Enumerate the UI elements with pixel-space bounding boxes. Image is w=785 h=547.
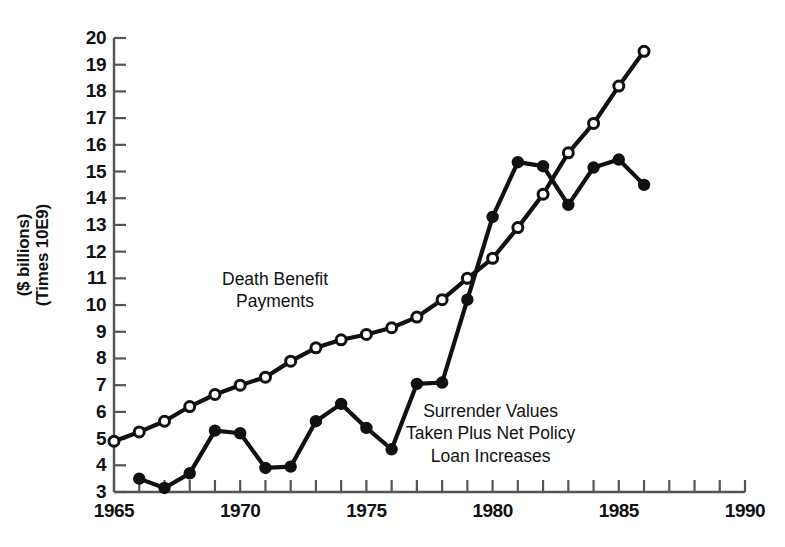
data-point [614, 81, 624, 91]
x-tick-label: 1970 [195, 500, 285, 522]
x-tick-label: 1975 [321, 500, 411, 522]
data-point [336, 399, 346, 409]
data-point [159, 416, 169, 426]
y-tick-label: 14 [62, 187, 106, 209]
data-point [286, 356, 296, 366]
data-point [437, 295, 447, 305]
y-tick-label: 9 [62, 321, 106, 343]
data-point [538, 189, 548, 199]
data-point [386, 444, 396, 454]
y-axis-title-line-1: ($ billions) [14, 160, 33, 350]
data-point [336, 335, 346, 345]
x-tick-label: 1965 [69, 500, 159, 522]
data-point [488, 253, 498, 263]
y-tick-label: 8 [62, 347, 106, 369]
data-point [513, 157, 523, 167]
y-tick-label: 4 [62, 454, 106, 476]
y-axis-title-line-2: (Times 10E9) [33, 160, 52, 350]
data-point [563, 200, 573, 210]
x-tick-label: 1985 [574, 500, 664, 522]
y-tick-label: 20 [62, 27, 106, 49]
y-tick-label: 6 [62, 401, 106, 423]
annotation-line-3: Loan Increases [406, 445, 575, 467]
y-tick-label: 13 [62, 214, 106, 236]
data-point [412, 379, 422, 389]
data-point [260, 463, 270, 473]
data-point [387, 323, 397, 333]
data-point [513, 223, 523, 233]
chart-plot-area [0, 0, 785, 547]
x-tick-label: 1990 [700, 500, 785, 522]
y-tick-label: 11 [62, 267, 106, 289]
annotation-line-1: Death Benefit [222, 268, 328, 290]
data-point [589, 118, 599, 128]
data-point [210, 425, 220, 435]
chart-series-death-benefit-payments [109, 46, 649, 446]
data-point [185, 402, 195, 412]
series-annotation-surrender-values: Surrender ValuesTaken Plus Net PolicyLoa… [406, 400, 575, 467]
data-point [639, 46, 649, 56]
data-point [311, 343, 321, 353]
data-point [109, 436, 119, 446]
y-axis-title: ($ billions) (Times 10E9) [14, 160, 52, 350]
y-tick-label: 5 [62, 428, 106, 450]
annotation-line-2: Payments [222, 290, 328, 312]
y-tick-label: 16 [62, 134, 106, 156]
y-tick-label: 10 [62, 294, 106, 316]
y-tick-label: 19 [62, 54, 106, 76]
data-point [159, 483, 169, 493]
data-point [285, 461, 295, 471]
data-point [412, 312, 422, 322]
data-point [134, 473, 144, 483]
data-point [311, 416, 321, 426]
annotation-line-1: Surrender Values [406, 400, 575, 422]
data-point [361, 423, 371, 433]
data-point [437, 377, 447, 387]
series-annotation-death-benefit: Death BenefitPayments [222, 268, 328, 313]
data-point [361, 329, 371, 339]
data-point [614, 154, 624, 164]
y-tick-label: 18 [62, 80, 106, 102]
data-point [210, 390, 220, 400]
data-point [134, 427, 144, 437]
data-point [563, 148, 573, 158]
data-point [462, 295, 472, 305]
y-tick-label: 15 [62, 161, 106, 183]
annotation-line-2: Taken Plus Net Policy [406, 422, 575, 444]
data-point [260, 372, 270, 382]
data-point [235, 428, 245, 438]
data-point [235, 380, 245, 390]
x-tick-label: 1980 [448, 500, 538, 522]
y-axis-ticks [114, 38, 126, 492]
y-tick-label: 7 [62, 374, 106, 396]
data-point [185, 468, 195, 478]
data-point [538, 161, 548, 171]
y-tick-label: 17 [62, 107, 106, 129]
data-point [487, 212, 497, 222]
data-point [588, 162, 598, 172]
data-point [639, 180, 649, 190]
x-axis-ticks [114, 480, 745, 492]
y-tick-label: 12 [62, 241, 106, 263]
chart-container: ($ billions) (Times 10E9) 34567891011121… [0, 0, 785, 547]
